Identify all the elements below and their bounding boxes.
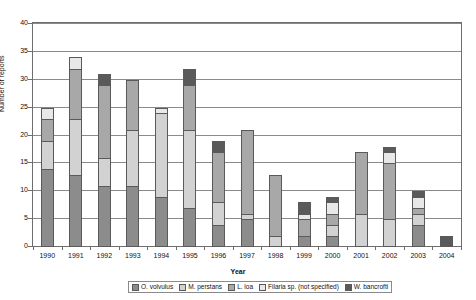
y-tick-mark bbox=[28, 135, 32, 136]
bar-group[interactable] bbox=[98, 23, 111, 247]
bar-segment[interactable] bbox=[126, 186, 139, 247]
bar-segment[interactable] bbox=[69, 175, 82, 247]
bar-segment[interactable] bbox=[212, 202, 225, 224]
bar-segment[interactable] bbox=[41, 141, 54, 169]
bar-segment[interactable] bbox=[69, 57, 82, 68]
y-tick-label: 40 bbox=[0, 19, 28, 26]
bar-segment[interactable] bbox=[241, 130, 254, 214]
legend-item[interactable]: W. bancrofti bbox=[345, 283, 388, 291]
bar-stack bbox=[155, 108, 168, 247]
bar-stack bbox=[269, 175, 282, 247]
x-tick-mark bbox=[432, 246, 433, 250]
x-tick-label: 2004 bbox=[427, 252, 467, 260]
bar-group[interactable] bbox=[69, 23, 82, 247]
y-tick-mark bbox=[28, 218, 32, 219]
bar-segment[interactable] bbox=[212, 152, 225, 202]
bar-segment[interactable] bbox=[383, 152, 396, 163]
bar-group[interactable] bbox=[241, 23, 254, 247]
legend-item[interactable]: O. volvulus bbox=[132, 283, 173, 291]
bar-segment[interactable] bbox=[41, 119, 54, 141]
bar-group[interactable] bbox=[269, 23, 282, 247]
bar-segment[interactable] bbox=[269, 175, 282, 236]
bar-stack bbox=[241, 130, 254, 247]
bar-group[interactable] bbox=[326, 23, 339, 247]
bar-group[interactable] bbox=[298, 23, 311, 247]
bar-segment[interactable] bbox=[298, 202, 311, 213]
bar-segment[interactable] bbox=[326, 202, 339, 213]
bar-segment[interactable] bbox=[326, 236, 339, 247]
legend-label: W. bancrofti bbox=[354, 283, 388, 291]
bar-segment[interactable] bbox=[383, 219, 396, 247]
bar-segment[interactable] bbox=[412, 225, 425, 247]
bar-segment[interactable] bbox=[212, 225, 225, 247]
legend-swatch-icon bbox=[132, 284, 139, 291]
y-tick-mark bbox=[28, 190, 32, 191]
bar-segment[interactable] bbox=[41, 169, 54, 247]
bar-segment[interactable] bbox=[98, 74, 111, 85]
bar-segment[interactable] bbox=[412, 197, 425, 208]
bar-stack bbox=[298, 202, 311, 247]
bar-segment[interactable] bbox=[241, 219, 254, 247]
bar-segment[interactable] bbox=[183, 85, 196, 130]
bar-segment[interactable] bbox=[298, 219, 311, 236]
x-tick-mark bbox=[33, 246, 34, 250]
bar-stack bbox=[440, 236, 453, 247]
bar-segment[interactable] bbox=[41, 108, 54, 119]
bar-segment[interactable] bbox=[98, 186, 111, 247]
bar-segment[interactable] bbox=[355, 152, 368, 213]
legend-item[interactable]: M. perstans bbox=[179, 283, 222, 291]
bar-group[interactable] bbox=[355, 23, 368, 247]
bar-segment[interactable] bbox=[155, 197, 168, 247]
bar-segment[interactable] bbox=[383, 163, 396, 219]
bar-segment[interactable] bbox=[155, 113, 168, 197]
bar-segment[interactable] bbox=[326, 214, 339, 225]
legend-item[interactable]: Filaria sp. (not specified) bbox=[259, 283, 339, 291]
bar-segment[interactable] bbox=[212, 141, 225, 152]
bar-segment[interactable] bbox=[69, 69, 82, 119]
bar-segment[interactable] bbox=[98, 85, 111, 157]
y-tick-label: 15 bbox=[0, 158, 28, 165]
bar-stack bbox=[41, 108, 54, 247]
bar-segment[interactable] bbox=[126, 130, 139, 186]
legend-swatch-icon bbox=[345, 284, 352, 291]
y-tick-mark bbox=[28, 246, 32, 247]
bar-segment[interactable] bbox=[298, 236, 311, 247]
x-tick-mark bbox=[90, 246, 91, 250]
filaria-reports-bar-chart: Number of reports 0510152025303540 19901… bbox=[0, 0, 476, 300]
bars-layer bbox=[33, 23, 461, 247]
y-tick-label: 20 bbox=[0, 131, 28, 138]
bar-group[interactable] bbox=[155, 23, 168, 247]
bar-group[interactable] bbox=[412, 23, 425, 247]
y-tick-label: 5 bbox=[0, 214, 28, 221]
x-tick-mark bbox=[233, 246, 234, 250]
x-tick-mark bbox=[147, 246, 148, 250]
bar-segment[interactable] bbox=[126, 80, 139, 130]
bar-group[interactable] bbox=[440, 23, 453, 247]
bar-group[interactable] bbox=[183, 23, 196, 247]
bar-segment[interactable] bbox=[98, 158, 111, 186]
x-tick-mark bbox=[347, 246, 348, 250]
bar-segment[interactable] bbox=[355, 214, 368, 247]
bar-group[interactable] bbox=[41, 23, 54, 247]
y-tick-label: 10 bbox=[0, 186, 28, 193]
legend-item[interactable]: L. loa bbox=[228, 283, 253, 291]
x-axis-title: Year bbox=[0, 268, 476, 275]
bar-group[interactable] bbox=[126, 23, 139, 247]
bar-stack bbox=[126, 80, 139, 247]
bar-segment[interactable] bbox=[440, 236, 453, 247]
y-tick-label: 30 bbox=[0, 75, 28, 82]
bar-segment[interactable] bbox=[183, 208, 196, 247]
bar-segment[interactable] bbox=[183, 69, 196, 86]
x-tick-mark bbox=[204, 246, 205, 250]
bar-segment[interactable] bbox=[183, 130, 196, 208]
bar-segment[interactable] bbox=[412, 214, 425, 225]
bar-segment[interactable] bbox=[269, 236, 282, 247]
bar-stack bbox=[212, 141, 225, 247]
bar-group[interactable] bbox=[212, 23, 225, 247]
bar-group[interactable] bbox=[383, 23, 396, 247]
y-tick-mark bbox=[28, 79, 32, 80]
x-tick-mark bbox=[290, 246, 291, 250]
bar-segment[interactable] bbox=[326, 225, 339, 236]
bar-segment[interactable] bbox=[69, 119, 82, 175]
x-tick-mark bbox=[461, 246, 462, 250]
